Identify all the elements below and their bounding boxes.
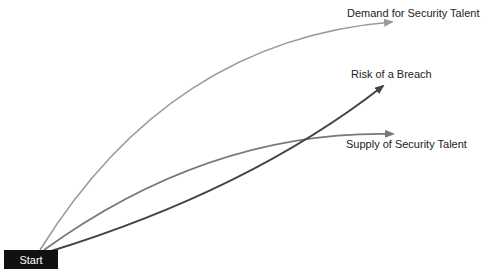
start-label: Start bbox=[19, 254, 42, 266]
supply-curve bbox=[44, 134, 393, 250]
risk-curve bbox=[48, 86, 383, 252]
start-box: Start bbox=[4, 250, 58, 269]
curves-canvas bbox=[0, 0, 481, 272]
risk-label: Risk of a Breach bbox=[351, 68, 432, 80]
supply-label: Supply of Security Talent bbox=[346, 138, 467, 150]
demand-label: Demand for Security Talent bbox=[347, 7, 479, 19]
